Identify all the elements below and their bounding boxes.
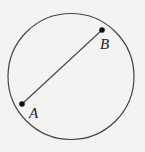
point-b-dot bbox=[99, 27, 105, 33]
diagram-canvas: A B bbox=[0, 0, 145, 152]
chord-ab bbox=[22, 30, 102, 104]
point-a-dot bbox=[19, 101, 25, 107]
circle bbox=[8, 14, 134, 140]
point-a-label: A bbox=[28, 105, 39, 121]
circle-chord-diagram: A B bbox=[0, 0, 145, 152]
point-b-label: B bbox=[100, 36, 109, 52]
